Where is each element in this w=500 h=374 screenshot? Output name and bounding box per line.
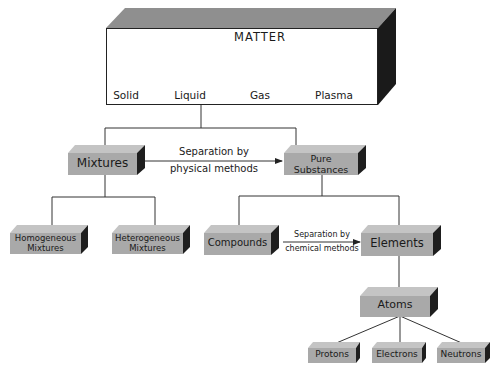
pure-line2: Substances [284, 165, 358, 176]
state-label-plasma: Plasma [304, 89, 364, 101]
node-homogeneous-mixtures: Homogeneous Mixtures [10, 234, 81, 254]
matter-box-top [106, 8, 396, 28]
node-heterogeneous-mixtures: Heterogeneous Mixtures [112, 234, 183, 254]
edge-label-physical-top: Separation by [148, 146, 280, 158]
homogeneous-line2: Mixtures [10, 244, 81, 254]
node-compounds: Compounds [204, 237, 271, 249]
state-label-solid: Solid [96, 89, 156, 101]
node-electrons: Electrons [372, 349, 422, 359]
matter-title: MATTER [220, 30, 300, 44]
edge-label-chemical-bottom: chemical methods [280, 244, 364, 253]
node-pure-substances: Pure Substances [284, 154, 358, 176]
node-neutrons: Neutrons [437, 349, 485, 359]
node-atoms: Atoms [360, 299, 430, 312]
heterogeneous-line2: Mixtures [112, 244, 183, 254]
node-elements: Elements [361, 237, 433, 250]
edge-label-chemical-top: Separation by [280, 230, 364, 239]
edge-label-physical-bottom: physical methods [148, 163, 280, 175]
node-protons: Protons [308, 349, 356, 359]
state-label-liquid: Liquid [160, 89, 220, 101]
node-mixtures: Mixtures [68, 157, 137, 171]
matter-classification-diagram: MATTER Solid Liquid Gas Plasma Mixtures … [0, 0, 500, 374]
state-label-gas: Gas [230, 89, 290, 101]
